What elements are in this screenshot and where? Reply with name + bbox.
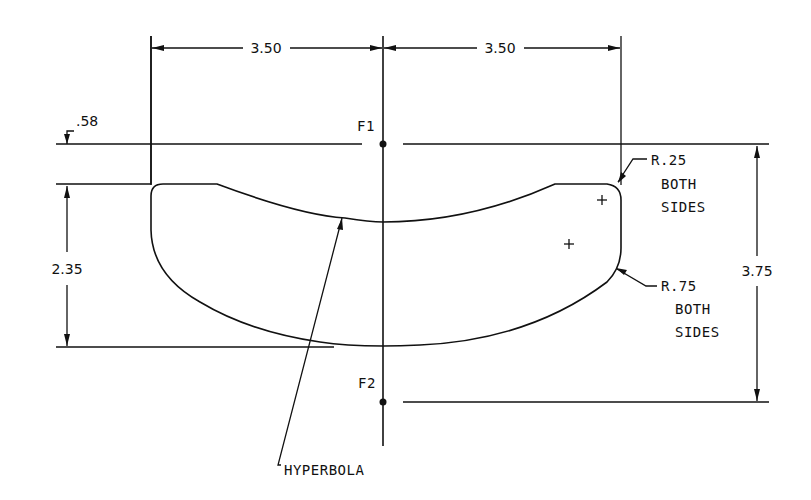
- dim-right-width: 3.50: [484, 40, 515, 56]
- label-r25: R.25: [651, 152, 687, 168]
- offset-step: [56, 36, 151, 184]
- top-dimension: [151, 36, 621, 185]
- arrowhead-icon: [370, 45, 382, 51]
- arrowhead-icon: [754, 146, 760, 158]
- label-hyperbola: HYPERBOLA: [284, 462, 364, 478]
- label-r25-sides: SIDES: [661, 199, 706, 215]
- focus-point-f1: [380, 141, 387, 148]
- label-r75-both: BOTH: [675, 301, 711, 317]
- label-r75-sides: SIDES: [675, 324, 720, 340]
- arrowhead-icon: [754, 389, 760, 401]
- arrowhead-icon: [618, 172, 626, 183]
- label-r25-both: BOTH: [661, 176, 697, 192]
- arrowhead-icon: [384, 45, 396, 51]
- label-r75: R.75: [661, 278, 697, 294]
- arrowhead-icon: [152, 45, 164, 51]
- arrowhead-icon: [64, 186, 70, 198]
- dim-height-left: 2.35: [51, 261, 82, 277]
- label-f2: F2: [358, 375, 376, 391]
- arrowhead-icon: [64, 334, 70, 346]
- focus-point-f2: [380, 399, 387, 406]
- arrowhead-icon: [337, 218, 343, 230]
- label-f1: F1: [357, 118, 375, 134]
- center-mark-icon: [597, 195, 607, 205]
- technical-drawing: 3.50 3.50 .58 2.35 3.75 F1 F2 HYPERBOLA …: [0, 0, 811, 500]
- lens-profile: [151, 184, 621, 346]
- dim-left-width: 3.50: [250, 40, 281, 56]
- dim-height-right: 3.75: [741, 263, 772, 279]
- dim-top-offset: .58: [76, 113, 98, 129]
- center-mark-icon: [564, 239, 574, 249]
- arrowhead-icon: [64, 134, 70, 144]
- arrowhead-icon: [608, 45, 620, 51]
- hyperbola-leader: [278, 218, 342, 465]
